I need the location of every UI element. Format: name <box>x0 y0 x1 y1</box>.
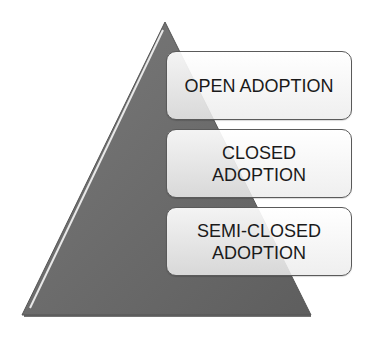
pyramid-item-open-adoption: OPEN ADOPTION <box>166 51 352 120</box>
item-label-line-2: ADOPTION <box>212 164 306 186</box>
item-label-line-2: ADOPTION <box>197 242 321 264</box>
item-label-line-1: SEMI-CLOSED <box>197 220 321 242</box>
item-label-line-1: CLOSED <box>212 142 306 164</box>
item-label: OPEN ADOPTION <box>184 75 333 97</box>
pyramid-item-closed-adoption: CLOSED ADOPTION <box>166 129 352 198</box>
pyramid-item-semi-closed-adoption: SEMI-CLOSED ADOPTION <box>166 207 352 276</box>
